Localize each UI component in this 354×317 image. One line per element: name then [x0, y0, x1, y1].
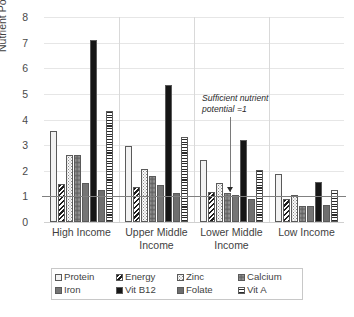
- legend-item-label: Iron: [64, 284, 81, 296]
- y-tick-label-8: 8: [2, 12, 28, 22]
- legend-swatch-icon: [238, 287, 245, 294]
- bar-vit-b12[interactable]: [90, 40, 97, 222]
- category-label-line-1: Low Income: [269, 226, 344, 239]
- legend-item-label: Energy: [125, 271, 155, 283]
- bar-calcium[interactable]: [74, 155, 81, 222]
- bar-vit-a[interactable]: [181, 137, 188, 222]
- reference-line-value-1: [42, 196, 346, 197]
- category-label-line-1: Lower Middle: [194, 226, 269, 239]
- bar-iron[interactable]: [232, 195, 239, 222]
- bar-protein[interactable]: [50, 131, 57, 222]
- x-axis-category-labels: High IncomeUpper MiddleIncomeLower Middl…: [44, 226, 344, 251]
- y-tick-label-5: 5: [2, 89, 28, 99]
- bar-energy[interactable]: [58, 184, 65, 222]
- y-tick-label-6: 6: [2, 63, 28, 73]
- legend-swatch-icon: [116, 287, 123, 294]
- legend-item-calcium[interactable]: Calcium: [238, 271, 299, 283]
- group-separator: [119, 17, 120, 222]
- gridline-0: [44, 222, 344, 223]
- bar-folate[interactable]: [173, 193, 180, 222]
- y-tick-label-7: 7: [2, 38, 28, 48]
- bar-calcium[interactable]: [149, 176, 156, 222]
- bar-vit-b12[interactable]: [315, 182, 322, 222]
- bar-protein[interactable]: [200, 160, 207, 222]
- y-tick-label-2: 2: [2, 166, 28, 176]
- category-label-1: Upper MiddleIncome: [119, 226, 194, 251]
- bar-zinc[interactable]: [216, 183, 223, 222]
- category-label-line-1: Upper Middle: [119, 226, 194, 239]
- legend-swatch-icon: [116, 274, 123, 281]
- bar-vit-a[interactable]: [331, 190, 338, 222]
- category-label-line-2: Income: [194, 239, 269, 252]
- annotation-arrow-stem: [230, 117, 231, 192]
- nutrient-potential-bar-chart: Nutrient Potential 012345678 Sufficient …: [0, 0, 354, 317]
- bar-calcium[interactable]: [299, 206, 306, 222]
- bar-folate[interactable]: [248, 199, 255, 222]
- bar-protein[interactable]: [275, 174, 282, 222]
- group-separator: [194, 17, 195, 222]
- bar-protein[interactable]: [125, 146, 132, 222]
- y-tick-label-0: 0: [2, 217, 28, 227]
- bar-energy[interactable]: [133, 187, 140, 222]
- bar-group-low-income: [269, 17, 344, 222]
- legend-swatch-icon: [55, 287, 62, 294]
- category-label-line-2: Income: [119, 239, 194, 252]
- chart-legend: ProteinEnergyZincCalciumIronVit B12Folat…: [51, 268, 303, 300]
- legend-item-vit-a[interactable]: Vit A: [238, 284, 299, 296]
- legend-item-label: Folate: [186, 284, 213, 296]
- plot-area: 012345678 Sufficient nutrient potential …: [44, 17, 344, 222]
- annotation-line-2: potential =1: [202, 104, 268, 115]
- legend-item-label: Vit B12: [125, 284, 156, 296]
- legend-swatch-icon: [55, 274, 62, 281]
- legend-item-energy[interactable]: Energy: [116, 271, 177, 283]
- group-separator: [269, 17, 270, 222]
- legend-item-folate[interactable]: Folate: [177, 284, 238, 296]
- annotation-sufficient-nutrient: Sufficient nutrient potential =1: [202, 93, 268, 115]
- bar-vit-a[interactable]: [106, 111, 113, 222]
- annotation-arrow-head-icon: [227, 187, 233, 192]
- legend-item-zinc[interactable]: Zinc: [177, 271, 238, 283]
- y-tick-label-3: 3: [2, 140, 28, 150]
- y-tick-label-1: 1: [2, 191, 28, 201]
- bar-group-upper-middle-income: [119, 17, 194, 222]
- legend-item-vit-b12[interactable]: Vit B12: [116, 284, 177, 296]
- legend-item-label: Calcium: [247, 271, 282, 283]
- legend-item-iron[interactable]: Iron: [55, 284, 116, 296]
- bar-vit-b12[interactable]: [165, 85, 172, 222]
- legend-item-protein[interactable]: Protein: [55, 271, 116, 283]
- bar-groups: [44, 17, 344, 222]
- bar-iron[interactable]: [157, 185, 164, 222]
- bar-energy[interactable]: [283, 199, 290, 222]
- category-label-2: Lower MiddleIncome: [194, 226, 269, 251]
- category-label-3: Low Income: [269, 226, 344, 251]
- y-tick-label-4: 4: [2, 115, 28, 125]
- bar-vit-b12[interactable]: [240, 140, 247, 222]
- legend-item-label: Zinc: [186, 271, 204, 283]
- category-label-line-1: High Income: [44, 226, 119, 239]
- bar-iron[interactable]: [82, 183, 89, 222]
- category-label-0: High Income: [44, 226, 119, 251]
- legend-swatch-icon: [177, 274, 184, 281]
- legend-swatch-icon: [238, 274, 245, 281]
- bar-iron[interactable]: [307, 206, 314, 222]
- bar-folate[interactable]: [323, 205, 330, 222]
- bar-zinc[interactable]: [291, 195, 298, 222]
- legend-item-label: Vit A: [247, 284, 267, 296]
- legend-item-label: Protein: [64, 271, 94, 283]
- legend-swatch-icon: [177, 287, 184, 294]
- caption-fragment: [8, 306, 338, 314]
- annotation-line-1: Sufficient nutrient: [202, 93, 268, 104]
- bar-folate[interactable]: [98, 190, 105, 222]
- bar-zinc[interactable]: [66, 155, 73, 222]
- bar-group-high-income: [44, 17, 119, 222]
